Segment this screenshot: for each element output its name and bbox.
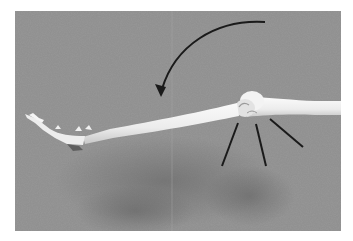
wing-skeleton-photo: [15, 11, 341, 231]
